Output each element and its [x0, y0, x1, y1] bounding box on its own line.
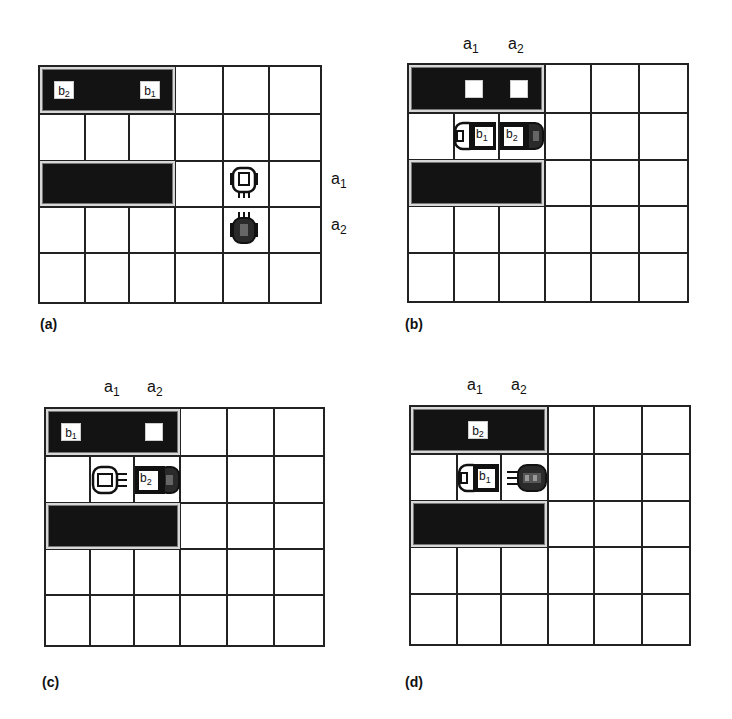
empty-slot [510, 80, 528, 98]
panel-label-c: (c) [42, 674, 59, 690]
grid-line [593, 407, 595, 644]
grid-line [409, 112, 687, 114]
robot-a1-icon [91, 463, 129, 497]
robot-label-a1: a1 [331, 170, 347, 191]
grid-line [273, 409, 275, 645]
grid-line [40, 206, 320, 208]
box-b2: b2 [54, 81, 74, 99]
column-label-a2: a2 [508, 35, 524, 56]
grid-line [411, 453, 689, 455]
empty-slot [465, 80, 483, 98]
box-b2: b2 [140, 471, 152, 487]
grid-line [590, 65, 592, 301]
grid-line [638, 65, 640, 301]
grid-line [544, 65, 546, 301]
box-b1: b1 [476, 127, 488, 143]
grid-line [40, 113, 320, 115]
panel-label-b: (b) [405, 316, 423, 332]
panel-label-d: (d) [405, 674, 423, 690]
empty-slot [145, 423, 163, 441]
grid-line [226, 409, 228, 645]
grid-line [46, 594, 323, 596]
grid-line [268, 67, 270, 302]
shelf-middle [40, 161, 175, 206]
column-label-a2: a2 [511, 376, 527, 397]
grid-line [40, 252, 320, 254]
shelf-middle [409, 160, 544, 206]
robot-label-a2: a2 [331, 216, 347, 237]
column-label-a1: a1 [463, 35, 479, 56]
grid-line [411, 593, 689, 595]
box-b2: b2 [506, 127, 518, 143]
shelf-middle [411, 501, 547, 547]
grid-line [547, 407, 549, 644]
box-b1: b1 [140, 81, 160, 99]
panel-label-a: (a) [40, 316, 57, 332]
robot-a2-icon [228, 211, 260, 245]
column-label-a1: a1 [467, 376, 483, 397]
grid-line [222, 67, 224, 302]
box-b1: b1 [61, 423, 81, 441]
box-b2: b2 [468, 421, 488, 439]
grid-line [641, 407, 643, 644]
box-b1: b1 [479, 469, 491, 485]
grid-line [46, 455, 323, 457]
robot-a2-icon [506, 461, 548, 495]
robot-a1-icon [228, 165, 260, 199]
robot-a1-icon [453, 119, 497, 153]
grid-line [409, 252, 687, 254]
column-label-a1: a1 [104, 378, 120, 399]
shelf-middle [46, 503, 180, 549]
column-label-a2: a2 [147, 378, 163, 399]
